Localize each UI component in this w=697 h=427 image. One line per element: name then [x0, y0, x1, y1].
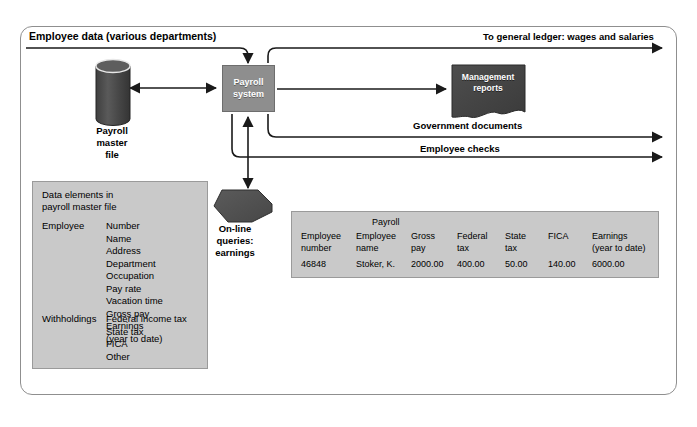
payroll-table-header-cell: Gross pay	[411, 231, 435, 254]
payroll-master-file-shape	[96, 60, 130, 126]
payroll-table-header-cell: State tax	[505, 231, 526, 254]
data-group-items-withholdings: Federal income tax State tax FICA Other	[106, 313, 187, 363]
node-payroll-system-label: Payroll system	[223, 77, 274, 100]
node-management-reports-label: Management reports	[455, 72, 521, 93]
data-group-category-withholdings: Withholdings	[42, 313, 96, 324]
payroll-table-row-cell: 400.00	[457, 259, 485, 271]
payroll-table-row-cell: 46848	[301, 259, 326, 271]
payroll-table-header-cell: Employee name	[356, 231, 396, 254]
payroll-table-header-cell: Employee number	[301, 231, 341, 254]
flow-general-ledger	[268, 48, 662, 63]
node-payroll-master-file-label: Payroll master file	[82, 125, 142, 161]
flow-label-general-ledger: To general ledger: wages and salaries	[479, 31, 658, 42]
flow-employee-data-in	[26, 48, 248, 63]
payroll-table-supertitle: Payroll	[372, 217, 400, 227]
payroll-output-table: Payroll Employee number Employee name Gr…	[291, 211, 659, 278]
diagram-canvas: Employee data (various departments) To g…	[0, 0, 697, 427]
payroll-table-header-cell: Earnings (year to date)	[592, 231, 646, 254]
payroll-table-row-cell: 50.00	[505, 259, 528, 271]
header-employee-data-label: Employee data (various departments)	[26, 30, 219, 42]
online-queries-shape	[214, 190, 272, 222]
payroll-table-row-cell: 6000.00	[592, 259, 625, 271]
node-online-queries-label: On-line queries: earnings	[203, 223, 267, 259]
data-elements-panel: Data elements in payroll master file Emp…	[32, 181, 208, 369]
payroll-table-header-cell: Federal tax	[457, 231, 488, 254]
flow-label-government-documents: Government documents	[409, 120, 526, 131]
node-payroll-system: Payroll system	[222, 65, 275, 112]
data-elements-panel-title: Data elements in payroll master file	[42, 189, 116, 214]
payroll-table-row-cell: 2000.00	[411, 259, 444, 271]
payroll-table-header-cell: FICA	[548, 231, 569, 243]
data-group-category-employee: Employee	[42, 220, 84, 231]
flow-label-employee-checks: Employee checks	[416, 143, 504, 154]
payroll-table-row-cell: Stoker, K.	[356, 259, 395, 271]
payroll-table-row-cell: 140.00	[548, 259, 576, 271]
